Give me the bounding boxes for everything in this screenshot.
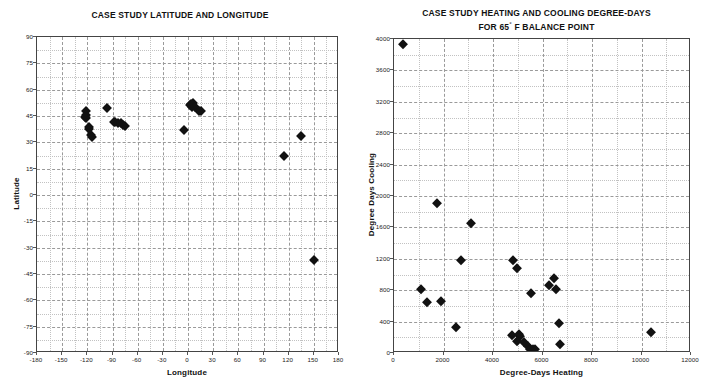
y-axis-tick-mark	[390, 132, 393, 133]
x-axis-title-left: Longitude	[36, 368, 338, 377]
x-axis-tick-label: -150	[55, 356, 68, 363]
y-axis-tick-mark	[390, 226, 393, 227]
x-axis-tick-label: 0	[185, 356, 189, 363]
chart-title-right-line2: FOR 65° F BALANCE POINT	[360, 19, 713, 33]
x-axis-tick-mark	[263, 352, 264, 355]
chart-panel-latitude-longitude: CASE STUDY LATITUDE AND LONGITUDE 907560…	[0, 0, 360, 392]
y-axis-tick-mark	[33, 168, 36, 169]
data-points-left	[37, 37, 337, 351]
data-point-marker	[512, 264, 521, 273]
x-axis-tick-label: -60	[132, 356, 141, 363]
title-balance-pre: FOR 65	[478, 22, 509, 32]
y-axis-tick-mark	[390, 289, 393, 290]
y-axis-tick-mark	[33, 36, 36, 37]
x-axis-tick-mark	[338, 352, 339, 355]
x-axis-tick-mark	[36, 352, 37, 355]
chart-title-left: CASE STUDY LATITUDE AND LONGITUDE	[0, 10, 360, 21]
x-axis-tick-label: 120	[282, 356, 293, 363]
x-axis-tick-label: 6000	[534, 356, 548, 363]
x-axis-tick-mark	[288, 352, 289, 355]
x-axis-tick-label: -30	[157, 356, 166, 363]
x-axis-tick-mark	[591, 352, 592, 355]
x-axis-tick-mark	[187, 352, 188, 355]
x-axis-tick-label: 180	[333, 356, 344, 363]
y-axis-tick-mark	[390, 101, 393, 102]
x-axis-tick-mark	[393, 352, 394, 355]
x-axis-tick-label: -180	[30, 356, 43, 363]
data-point-marker	[647, 327, 656, 336]
y-axis-tick-mark	[33, 62, 36, 63]
x-axis-tick-mark	[313, 352, 314, 355]
data-point-marker	[555, 340, 564, 349]
x-axis-tick-mark	[112, 352, 113, 355]
y-axis-tick-mark	[390, 321, 393, 322]
x-axis-tick-mark	[86, 352, 87, 355]
x-axis-tick-mark	[641, 352, 642, 355]
data-point-marker	[527, 288, 536, 297]
data-point-marker	[554, 318, 563, 327]
chart-title-right: CASE STUDY HEATING AND COOLING DEGREE-DA…	[360, 8, 713, 33]
data-point-marker	[398, 39, 407, 48]
data-point-marker	[423, 297, 432, 306]
data-point-marker	[279, 151, 289, 161]
figure-root: CASE STUDY LATITUDE AND LONGITUDE 907560…	[0, 0, 713, 392]
plot-area-right	[393, 38, 690, 352]
x-axis-tick-label: -120	[80, 356, 93, 363]
data-point-marker	[179, 125, 189, 135]
x-axis-tick-mark	[61, 352, 62, 355]
x-axis-title-right: Degree-Days Heating	[393, 368, 690, 377]
y-axis-tick-mark	[390, 69, 393, 70]
y-axis-tick-mark	[33, 220, 36, 221]
x-axis-tick-label: 90	[259, 356, 266, 363]
data-points-right	[394, 39, 689, 351]
data-point-marker	[309, 255, 319, 265]
x-axis-tick-label: 2000	[435, 356, 449, 363]
y-axis-tick-mark	[33, 115, 36, 116]
y-axis-tick-mark	[33, 89, 36, 90]
y-axis-tick-mark	[33, 247, 36, 248]
chart-title-left-text: CASE STUDY LATITUDE AND LONGITUDE	[0, 10, 360, 21]
chart-panel-degree-days: CASE STUDY HEATING AND COOLING DEGREE-DA…	[360, 0, 713, 392]
x-axis-tick-mark	[690, 352, 691, 355]
x-axis-tick-mark	[443, 352, 444, 355]
x-axis-tick-label: 12000	[681, 356, 699, 363]
y-axis-tick-mark	[390, 195, 393, 196]
y-axis-tick-mark	[33, 141, 36, 142]
y-axis-tick-mark	[390, 258, 393, 259]
x-axis-tick-label: 4000	[485, 356, 499, 363]
y-axis-tick-mark	[33, 273, 36, 274]
y-axis-tick-mark	[390, 164, 393, 165]
x-axis-tick-mark	[212, 352, 213, 355]
y-axis-tick-mark	[33, 299, 36, 300]
x-axis-tick-mark	[162, 352, 163, 355]
chart-title-right-line1: CASE STUDY HEATING AND COOLING DEGREE-DA…	[360, 8, 713, 19]
x-axis-tick-mark	[137, 352, 138, 355]
x-axis-tick-label: 10000	[632, 356, 650, 363]
x-axis-tick-label: 150	[308, 356, 319, 363]
y-axis-tick-mark	[390, 38, 393, 39]
title-balance-post: F BALANCE POINT	[512, 22, 595, 32]
data-point-marker	[456, 255, 465, 264]
y-axis-tick-mark	[33, 326, 36, 327]
y-axis-title-left: Latitude	[12, 36, 21, 352]
data-point-marker	[433, 198, 442, 207]
x-axis-tick-mark	[542, 352, 543, 355]
x-axis-tick-label: 8000	[584, 356, 598, 363]
data-point-marker	[102, 103, 112, 113]
plot-area-left	[36, 36, 338, 352]
x-axis-tick-mark	[237, 352, 238, 355]
x-axis-tick-label: 30	[209, 356, 216, 363]
data-point-marker	[451, 322, 460, 331]
data-point-marker	[296, 131, 306, 141]
x-axis-tick-label: 60	[234, 356, 241, 363]
x-axis-tick-label: -90	[107, 356, 116, 363]
data-point-marker	[436, 297, 445, 306]
x-axis-tick-mark	[492, 352, 493, 355]
data-point-marker	[466, 218, 475, 227]
y-axis-tick-mark	[33, 194, 36, 195]
y-axis-title-right: Degree Days Cooling	[367, 38, 376, 352]
x-axis-tick-label: 0	[391, 356, 395, 363]
data-point-marker	[416, 285, 425, 294]
